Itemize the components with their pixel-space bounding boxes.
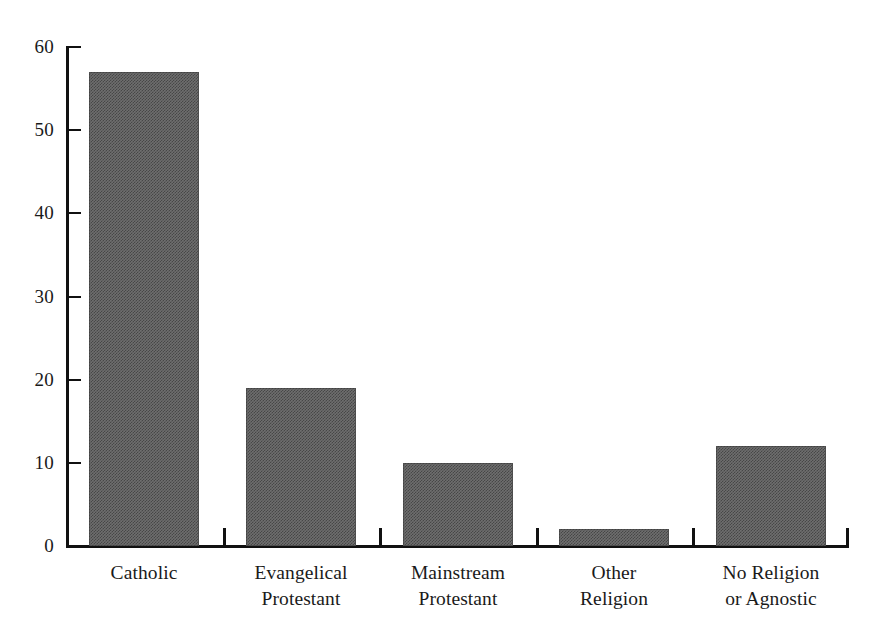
y-axis-tick-label: 50	[14, 120, 54, 139]
x-axis-category-label: EvangelicalProtestant	[211, 560, 391, 612]
x-axis-tick-mark	[223, 528, 226, 546]
bar	[246, 388, 356, 546]
y-axis-tick-mark	[69, 296, 81, 298]
y-axis-tick-label: 20	[14, 370, 54, 389]
x-axis-category-label: OtherReligion	[524, 560, 704, 612]
x-axis-end-tick-mark	[846, 528, 849, 546]
bar	[403, 463, 513, 546]
y-axis-tick-label: 30	[14, 287, 54, 306]
y-axis-tick-label: 10	[14, 453, 54, 472]
x-axis-category-label: MainstreamProtestant	[368, 560, 548, 612]
x-axis-category-label: Catholic	[54, 560, 234, 586]
y-axis-tick-mark	[69, 46, 81, 48]
category-label-line-2: Protestant	[211, 586, 391, 612]
y-axis-tick-mark	[69, 129, 81, 131]
category-label-line-1: No Religion	[723, 562, 820, 583]
category-label-line-1: Mainstream	[411, 562, 505, 583]
x-axis-tick-mark	[692, 528, 695, 546]
x-axis-category-label: No Religionor Agnostic	[681, 560, 861, 612]
category-label-line-2: Protestant	[368, 586, 548, 612]
bar	[716, 446, 826, 546]
y-axis-tick-label: 60	[14, 37, 54, 56]
category-label-line-2: Religion	[524, 586, 704, 612]
y-axis-tick-mark	[69, 462, 81, 464]
category-label-line-1: Other	[592, 562, 637, 583]
category-label-line-1: Evangelical	[254, 562, 347, 583]
bar	[89, 72, 199, 546]
x-axis-tick-mark	[536, 528, 539, 546]
category-label-line-1: Catholic	[111, 562, 178, 583]
bar-chart: 0102030405060 CatholicEvangelicalProtest…	[0, 0, 885, 636]
y-axis-tick-label: 40	[14, 203, 54, 222]
y-axis-tick-mark	[69, 212, 81, 214]
bar	[559, 529, 669, 546]
y-axis-tick-label: 0	[14, 536, 54, 555]
y-axis-tick-mark	[69, 379, 81, 381]
category-label-line-2: or Agnostic	[681, 586, 861, 612]
x-axis-tick-mark	[379, 528, 382, 546]
